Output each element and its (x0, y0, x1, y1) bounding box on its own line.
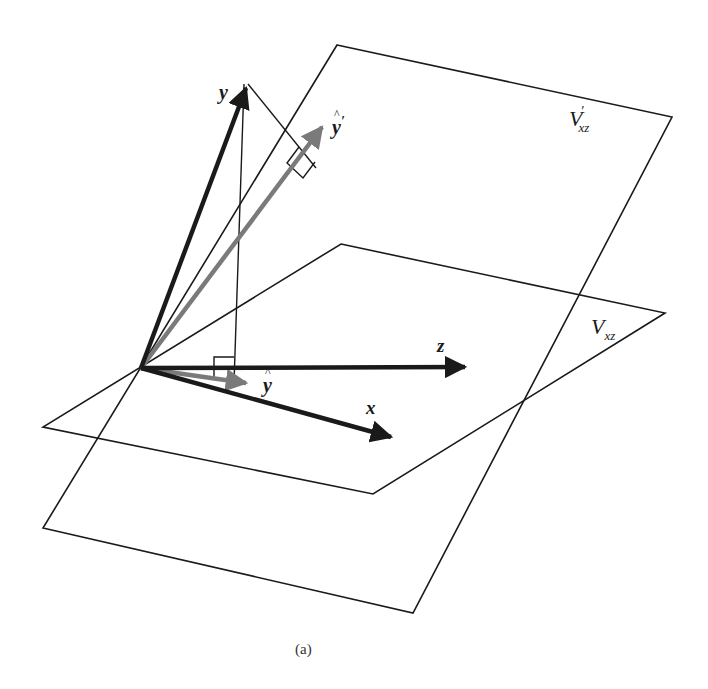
label-y-hat: y (263, 375, 272, 395)
label-x: x (366, 398, 376, 417)
label-x-text: x (366, 397, 376, 418)
label-z-text: z (437, 335, 444, 356)
vector-y-hat-prime (141, 127, 322, 368)
figure-caption: (a) (295, 642, 312, 657)
diagram-svg (0, 0, 708, 689)
figure-canvas: y y′ y z x V′xz Vxz (a) (0, 0, 708, 689)
label-v-main: V (591, 314, 604, 339)
prime-mark-plane: ′ (580, 104, 583, 119)
prime-mark: ′ (341, 114, 345, 129)
label-y-text: y (219, 81, 228, 103)
label-v-prime-sub: xz (579, 120, 590, 135)
caption-text: (a) (295, 641, 312, 657)
vector-z (141, 367, 465, 368)
label-plane-v-xz: Vxz (591, 316, 615, 338)
label-y: y (219, 82, 228, 102)
label-z: z (437, 336, 444, 355)
label-y-hat-text: y (263, 375, 272, 395)
label-y-hat-prime-text: y (332, 117, 341, 137)
label-plane-v-xz-prime: V′xz (569, 108, 589, 130)
vector-y (141, 88, 246, 368)
label-y-hat-prime: y′ (332, 117, 345, 137)
label-v-sub: xz (604, 328, 615, 343)
